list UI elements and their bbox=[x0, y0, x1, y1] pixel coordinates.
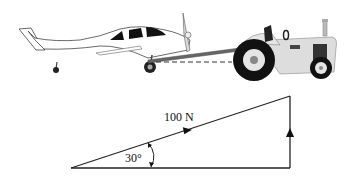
tractor-badge bbox=[290, 45, 300, 49]
airplane-spinner bbox=[185, 32, 191, 38]
tractor bbox=[233, 19, 337, 81]
resultant-arrowhead-icon bbox=[183, 127, 192, 135]
diagram-canvas: 100 N 30° bbox=[0, 0, 351, 181]
vector-triangle bbox=[71, 96, 294, 168]
tractor-seat bbox=[264, 25, 273, 42]
vertical-arrowhead-icon bbox=[286, 128, 294, 137]
tractor-steering-wheel bbox=[284, 31, 289, 40]
angle-label: 30° bbox=[125, 151, 142, 165]
airplane-main-hub bbox=[148, 65, 153, 70]
tractor-exhaust bbox=[323, 20, 327, 36]
airplane bbox=[19, 13, 191, 73]
force-label: 100 N bbox=[164, 110, 194, 124]
airplane-tail-wheel bbox=[53, 67, 59, 73]
tractor-front-hub bbox=[319, 66, 323, 70]
tractor-rear-hub bbox=[250, 56, 258, 64]
resultant-force-vector bbox=[71, 96, 290, 168]
